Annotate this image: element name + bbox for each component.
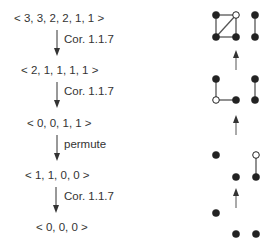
up-arrow-icon bbox=[233, 50, 239, 70]
open-vertex bbox=[213, 97, 220, 104]
graph-2 bbox=[212, 151, 259, 180]
graph-1 bbox=[212, 75, 258, 103]
filled-vertex bbox=[252, 173, 259, 180]
graph-diagram bbox=[0, 0, 273, 248]
up-arrow-icon bbox=[233, 188, 239, 208]
filled-vertex bbox=[212, 75, 219, 82]
filled-vertex bbox=[232, 33, 239, 40]
filled-vertex bbox=[232, 173, 239, 180]
down-arrow-icon bbox=[54, 135, 60, 161]
open-vertex bbox=[253, 152, 260, 159]
down-arrow-icon bbox=[54, 30, 60, 56]
filled-vertex bbox=[232, 96, 239, 103]
filled-vertex bbox=[251, 96, 258, 103]
down-arrow-icon bbox=[54, 82, 60, 108]
graph-edge bbox=[216, 15, 236, 37]
filled-vertex bbox=[212, 33, 219, 40]
graph-0 bbox=[212, 11, 258, 40]
filled-vertex bbox=[251, 75, 258, 82]
filled-vertex bbox=[212, 11, 219, 18]
filled-vertex bbox=[252, 230, 259, 237]
filled-vertex bbox=[232, 230, 239, 237]
filled-vertex bbox=[212, 209, 219, 216]
filled-vertex bbox=[212, 151, 219, 158]
filled-vertex bbox=[251, 11, 258, 18]
graph-3 bbox=[212, 209, 259, 237]
down-arrow-icon bbox=[53, 187, 59, 213]
open-vertex bbox=[233, 12, 240, 19]
filled-vertex bbox=[251, 33, 258, 40]
up-arrow-icon bbox=[233, 115, 239, 135]
